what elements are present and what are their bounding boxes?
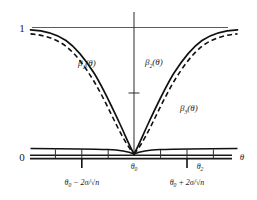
annotation-beta3: β3(θ) [179,103,198,115]
svg-text:β1(θ): β1(θ) [77,58,96,70]
curve-beta1-solid [31,30,135,154]
y-tick-label-one: 1 [19,22,25,34]
power-function-chart: 1 0 θ β1(θ) β2(θ) β3(θ) θ0 θ2 θ [0,0,257,200]
x-label-theta0: θ0 [131,162,138,172]
chart-svg: 1 0 θ β1(θ) β2(θ) β3(θ) θ0 θ2 θ [0,0,257,200]
curve-beta3-dashed [134,34,238,154]
svg-text:β3(θ): β3(θ) [179,103,198,115]
x-label-theta0-minus-2sigma: θ0 − 2σ/√n [64,178,99,188]
x-axis-label: θ [240,152,245,162]
annotation-beta1: β1(θ) [77,58,96,70]
curve-beta2-solid [134,30,238,154]
curve-flat-tail-right [134,148,238,154]
x-label-theta2: θ2 [197,162,204,172]
beta2-arg: (θ) [152,57,162,67]
curve-beta1-companion-dashed [31,34,135,154]
x-label-theta0-plus-2sigma: θ0 + 2σ/√n [170,178,205,188]
beta1-arg: (θ) [85,58,95,68]
annotation-beta2: β2(θ) [144,57,163,69]
beta3-arg: (θ) [187,103,197,113]
svg-text:β2(θ): β2(θ) [144,57,163,69]
y-tick-label-zero: 0 [19,151,25,163]
